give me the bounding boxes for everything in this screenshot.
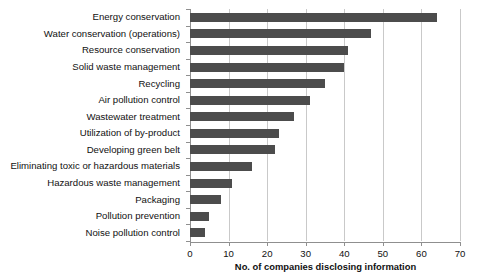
bar-row <box>190 225 460 242</box>
category-axis: Energy conservation Water conservation (… <box>0 9 186 241</box>
category-label: Energy conservation <box>93 12 180 22</box>
bar-row <box>190 108 460 125</box>
x-axis-tick <box>190 242 191 246</box>
category-label: Wastewater treatment <box>87 112 180 122</box>
category-label-row: Recycling <box>0 75 186 92</box>
x-axis-tick <box>267 242 268 246</box>
bar[interactable] <box>190 96 310 105</box>
x-axis-tick-label: 0 <box>187 248 192 259</box>
y-axis-tick <box>186 241 190 242</box>
bar[interactable] <box>190 145 275 154</box>
bar[interactable] <box>190 63 344 72</box>
category-label-row: Pollution prevention <box>0 208 186 225</box>
category-label: Packaging <box>135 195 180 205</box>
y-axis-tick <box>186 158 190 159</box>
category-label-row: Air pollution control <box>0 92 186 109</box>
x-axis-spine <box>190 242 461 243</box>
category-label: Hazardous waste management <box>47 178 180 188</box>
category-label-row: Noise pollution control <box>0 225 186 242</box>
bar[interactable] <box>190 228 205 237</box>
x-axis-tick-label: 10 <box>223 248 234 259</box>
bar[interactable] <box>190 195 221 204</box>
plot-area <box>190 9 460 241</box>
y-axis-tick <box>186 142 190 143</box>
x-axis-tick-label: 70 <box>455 248 466 259</box>
bar[interactable] <box>190 13 437 22</box>
bar-chart: Energy conservation Water conservation (… <box>0 0 481 280</box>
category-label: Utilization of by-product <box>80 128 180 138</box>
y-axis-tick <box>186 75 190 76</box>
x-axis-tick-label: 50 <box>378 248 389 259</box>
category-label: Resource conservation <box>82 45 180 55</box>
category-label-row: Hazardous waste management <box>0 175 186 192</box>
category-label-row: Developing green belt <box>0 142 186 159</box>
bars-layer <box>190 9 460 241</box>
y-axis-tick <box>186 224 190 225</box>
bar[interactable] <box>190 162 252 171</box>
bar[interactable] <box>190 29 371 38</box>
category-label: Air pollution control <box>98 95 180 105</box>
category-label-row: Solid waste management <box>0 59 186 76</box>
category-label: Developing green belt <box>87 145 180 155</box>
bar-row <box>190 175 460 192</box>
bar[interactable] <box>190 129 279 138</box>
category-label-row: Packaging <box>0 191 186 208</box>
y-axis-tick <box>186 59 190 60</box>
x-axis-title: No. of companies disclosing information <box>190 261 461 272</box>
x-axis-tick <box>344 242 345 246</box>
category-label-row: Resource conservation <box>0 42 186 59</box>
category-label-row: Water conservation (operations) <box>0 26 186 43</box>
x-axis-tick <box>383 242 384 246</box>
bar-row <box>190 42 460 59</box>
y-axis-tick <box>186 42 190 43</box>
y-axis-tick <box>186 191 190 192</box>
bar-row <box>190 158 460 175</box>
bar-row <box>190 26 460 43</box>
bar-row <box>190 75 460 92</box>
category-label-row: Utilization of by-product <box>0 125 186 142</box>
category-label: Recycling <box>138 79 180 89</box>
category-label-row: Energy conservation <box>0 9 186 26</box>
x-axis-tick <box>229 242 230 246</box>
bar[interactable] <box>190 79 325 88</box>
category-label: Pollution prevention <box>96 211 180 221</box>
x-axis-tick-label: 40 <box>339 248 350 259</box>
gridline <box>460 9 461 241</box>
y-axis-spine <box>190 9 191 242</box>
category-label: Solid waste management <box>72 62 180 72</box>
y-axis-tick <box>186 208 190 209</box>
bar-row <box>190 125 460 142</box>
y-axis-tick <box>186 26 190 27</box>
x-axis-tick <box>460 242 461 246</box>
bar-row <box>190 191 460 208</box>
y-axis-tick <box>186 175 190 176</box>
category-label: Noise pollution control <box>86 228 180 238</box>
category-label-row: Eliminating toxic or hazardous materials <box>0 158 186 175</box>
x-axis-tick <box>306 242 307 246</box>
bar-row <box>190 92 460 109</box>
bar[interactable] <box>190 212 209 221</box>
y-axis-tick <box>186 108 190 109</box>
bar-row <box>190 208 460 225</box>
category-label-row: Wastewater treatment <box>0 108 186 125</box>
x-axis-tick-label: 60 <box>416 248 427 259</box>
bar[interactable] <box>190 112 294 121</box>
y-axis-tick <box>186 9 190 10</box>
y-axis-tick <box>186 125 190 126</box>
x-axis-tick-label: 30 <box>300 248 311 259</box>
category-label: Eliminating toxic or hazardous materials <box>10 161 180 171</box>
bar-row <box>190 142 460 159</box>
bar-row <box>190 59 460 76</box>
bar-row <box>190 9 460 26</box>
y-axis-tick <box>186 92 190 93</box>
category-label: Water conservation (operations) <box>44 29 180 39</box>
bar[interactable] <box>190 46 348 55</box>
bar[interactable] <box>190 179 232 188</box>
x-axis-tick-label: 20 <box>262 248 273 259</box>
x-axis-tick <box>421 242 422 246</box>
